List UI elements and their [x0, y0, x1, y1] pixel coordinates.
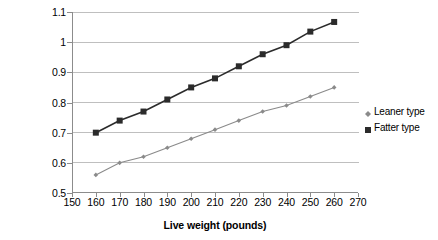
data-point-diamond	[94, 173, 99, 178]
y-tick-label: 0.6	[22, 158, 66, 168]
data-point-diamond	[237, 118, 242, 123]
data-point-square	[93, 130, 99, 136]
x-tick-mark	[239, 193, 240, 197]
y-tick-label: 1	[22, 37, 66, 47]
x-axis-title: Live weight (pounds)	[72, 219, 358, 231]
y-tick-label: 1.1	[22, 7, 66, 17]
data-point-square	[284, 42, 290, 48]
x-tick-mark	[263, 193, 264, 197]
data-point-square	[331, 19, 337, 25]
data-point-diamond	[213, 127, 218, 132]
diamond-marker-icon	[362, 106, 374, 118]
x-tick-mark	[358, 193, 359, 197]
y-tick-label: 0.9	[22, 67, 66, 77]
data-point-square	[141, 109, 147, 115]
data-point-diamond	[332, 85, 337, 90]
y-tick-label: 0.8	[22, 98, 66, 108]
data-point-square	[188, 84, 194, 90]
data-point-diamond	[260, 109, 265, 114]
data-point-diamond	[284, 103, 289, 108]
data-point-diamond	[141, 155, 146, 160]
x-tick-mark	[167, 193, 168, 197]
x-tick-mark	[287, 193, 288, 197]
data-point-diamond	[308, 94, 313, 99]
square-marker-icon	[362, 122, 374, 134]
x-tick-mark	[96, 193, 97, 197]
backfat-vs-live-weight-chart: Backfat (in.) 0.50.60.70.80.911.1 150160…	[0, 0, 438, 240]
legend-label: Fatter type	[374, 122, 420, 134]
data-point-diamond	[165, 145, 170, 150]
y-tick-label: 0.7	[22, 128, 66, 138]
legend-item[interactable]: Fatter type	[362, 120, 438, 136]
series-layer	[72, 12, 358, 193]
x-tick-mark	[191, 193, 192, 197]
x-tick-mark	[334, 193, 335, 197]
data-point-square	[307, 29, 313, 35]
data-point-square	[164, 96, 170, 102]
data-point-square	[236, 63, 242, 69]
data-point-square	[260, 51, 266, 57]
x-tick-label: 270	[338, 197, 378, 208]
x-tick-mark	[120, 193, 121, 197]
data-point-diamond	[189, 136, 194, 141]
x-tick-mark	[215, 193, 216, 197]
legend: Leaner typeFatter type	[362, 104, 438, 136]
legend-item[interactable]: Leaner type	[362, 104, 438, 120]
data-point-square	[117, 118, 123, 124]
x-tick-mark	[72, 193, 73, 197]
x-tick-mark	[310, 193, 311, 197]
x-tick-mark	[144, 193, 145, 197]
data-point-diamond	[117, 161, 122, 166]
legend-label: Leaner type	[374, 106, 425, 118]
data-point-square	[212, 75, 218, 81]
